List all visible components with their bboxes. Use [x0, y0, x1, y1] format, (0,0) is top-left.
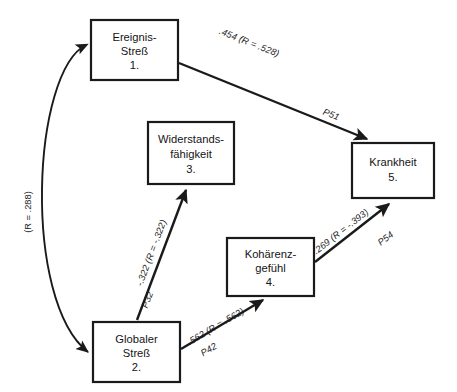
- edge-4-5-path-label: P54: [376, 229, 395, 247]
- node-globaler-stress[interactable]: Globaler Streß 2.: [93, 322, 180, 382]
- edge-2-4: .562 (R = .562) P42: [181, 300, 263, 358]
- edge-1-5-coefficient: .454 (R = .528): [218, 26, 281, 59]
- edge-1-2-correlation: (R = .288): [23, 45, 88, 352]
- node-ereignis-stress[interactable]: Ereignis- Streß 1.: [91, 20, 178, 80]
- edge-2-3: -.322 (R = -.322) P32: [135, 190, 186, 320]
- edge-4-5-line: [315, 204, 389, 262]
- node-kohaerenzgefuehl-line2: gefühl: [255, 262, 285, 274]
- node-krankheit-number: 5.: [388, 171, 397, 183]
- node-krankheit-line1: Krankheit: [369, 156, 417, 168]
- path-diagram: (R = .288) .454 (R = .528) P51 -.322 (R …: [0, 0, 457, 392]
- node-widerstandsfaehigkeit-line2: fähigkeit: [170, 148, 213, 160]
- node-globaler-stress-line2: Streß: [123, 347, 151, 359]
- node-widerstandsfaehigkeit-line1: Widerstands-: [158, 133, 224, 145]
- node-ereignis-stress-line2: Streß: [121, 45, 149, 57]
- node-globaler-stress-line1: Globaler: [115, 333, 158, 345]
- diagram-canvas: (R = .288) .454 (R = .528) P51 -.322 (R …: [0, 0, 457, 392]
- node-globaler-stress-number: 2.: [132, 361, 141, 373]
- node-ereignis-stress-line1: Ereignis-: [112, 31, 156, 43]
- node-widerstandsfaehigkeit[interactable]: Widerstands- fähigkeit 3.: [148, 122, 234, 184]
- node-kohaerenzgefuehl[interactable]: Kohärenz- gefühl 4.: [227, 238, 314, 296]
- edge-2-4-path-label: P42: [199, 341, 219, 359]
- edge-1-2-correlation-label: (R = .288): [23, 191, 33, 233]
- edge-4-5: -.269 (R = -.393) P54: [309, 204, 395, 262]
- edge-1-2-line: [42, 45, 88, 352]
- node-kohaerenzgefuehl-number: 4.: [266, 276, 275, 288]
- edge-4-5-coefficient: -.269 (R = -.393): [309, 207, 370, 258]
- node-widerstandsfaehigkeit-number: 3.: [186, 163, 195, 175]
- node-ereignis-stress-number: 1.: [130, 59, 139, 71]
- edge-2-3-path-label: P32: [140, 289, 156, 309]
- node-krankheit[interactable]: Krankheit 5.: [352, 143, 434, 198]
- node-kohaerenzgefuehl-line1: Kohärenz-: [245, 248, 297, 260]
- edge-2-4-coefficient: .562 (R = .562): [186, 306, 246, 347]
- edge-1-5-path-label: P51: [322, 107, 341, 122]
